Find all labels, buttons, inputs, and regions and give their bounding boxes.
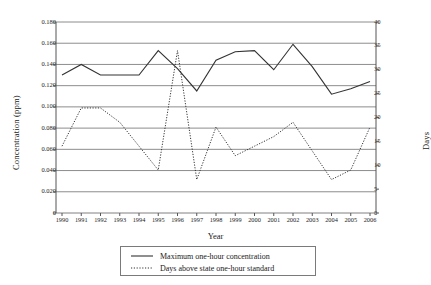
plot-area <box>0 0 431 285</box>
legend-swatch-dotted-line <box>130 263 154 273</box>
legend-item-max-concentration: Maximum one-hour concentration <box>121 250 315 262</box>
legend-item-days-above-standard: Days above state one-hour standard <box>121 262 315 274</box>
legend-label-max-concentration: Maximum one-hour concentration <box>154 252 270 261</box>
legend-swatch-solid-line <box>130 251 154 261</box>
legend-label-days-above-standard: Days above state one-hour standard <box>154 264 274 273</box>
chart-legend: Maximum one-hour concentration Days abov… <box>120 246 316 276</box>
chart-figure: Concentration (ppm) Days Year 0.1800.160… <box>0 0 431 285</box>
